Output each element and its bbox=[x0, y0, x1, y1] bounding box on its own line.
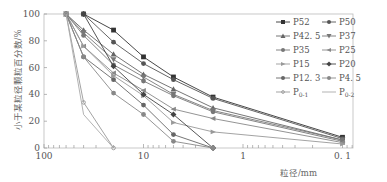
legend-label: P0-2 bbox=[339, 87, 355, 98]
legend-label: P20 bbox=[339, 59, 356, 69]
legend-label: P25 bbox=[339, 45, 356, 55]
legend-label: P0-1 bbox=[293, 87, 308, 98]
legend-item: P0-2 bbox=[322, 87, 355, 98]
series-p20 bbox=[81, 11, 216, 151]
grain-size-distribution-chart: 020406080100 1001010. 1 P52P50P42. 5P37P… bbox=[0, 0, 387, 182]
legend-item: P50 bbox=[322, 17, 356, 27]
x-tick-label: 1 bbox=[240, 151, 246, 161]
legend-item: P52 bbox=[276, 17, 310, 27]
series-p0-1 bbox=[64, 12, 115, 150]
y-tick-label: 60 bbox=[29, 63, 41, 73]
legend-item: P4. 5 bbox=[322, 73, 361, 83]
legend-item: P35 bbox=[276, 45, 310, 55]
legend-label: P4. 5 bbox=[339, 73, 361, 83]
x-axis-title: 粒径/mm bbox=[280, 168, 317, 178]
legend-label: P42. 5 bbox=[293, 31, 320, 41]
y-tick-label: 20 bbox=[29, 116, 41, 126]
y-tick-label: 40 bbox=[29, 89, 41, 99]
legend-item: P42. 5 bbox=[276, 31, 320, 41]
legend-item: P37 bbox=[322, 31, 356, 41]
y-axis-title: 小于某粒径颗粒百分数/% bbox=[13, 30, 23, 131]
y-axis: 020406080100 bbox=[23, 9, 47, 153]
y-tick-label: 80 bbox=[29, 36, 41, 46]
x-tick-label: 100 bbox=[35, 151, 52, 161]
legend-item: P12. 3 bbox=[276, 73, 320, 83]
legend-label: P50 bbox=[339, 17, 356, 27]
x-minor-ticks bbox=[44, 144, 352, 148]
legend-item: P25 bbox=[322, 45, 356, 55]
legend: P52P50P42. 5P37P35P25P15P20P12. 3P4. 5P0… bbox=[276, 17, 361, 98]
legend-label: P37 bbox=[339, 31, 356, 41]
x-axis: 1001010. 1 bbox=[35, 151, 351, 161]
legend-item: P20 bbox=[322, 59, 356, 69]
legend-item: P0-1 bbox=[276, 87, 308, 98]
legend-label: P35 bbox=[293, 45, 310, 55]
y-tick-label: 100 bbox=[23, 9, 40, 19]
legend-label: P15 bbox=[293, 59, 310, 69]
x-tick-label: 10 bbox=[138, 151, 150, 161]
legend-label: P52 bbox=[293, 17, 310, 27]
legend-label: P12. 3 bbox=[293, 73, 320, 83]
x-tick-label: 0. 1 bbox=[334, 151, 351, 161]
legend-item: P15 bbox=[276, 59, 310, 69]
series-p0-2 bbox=[66, 14, 113, 148]
